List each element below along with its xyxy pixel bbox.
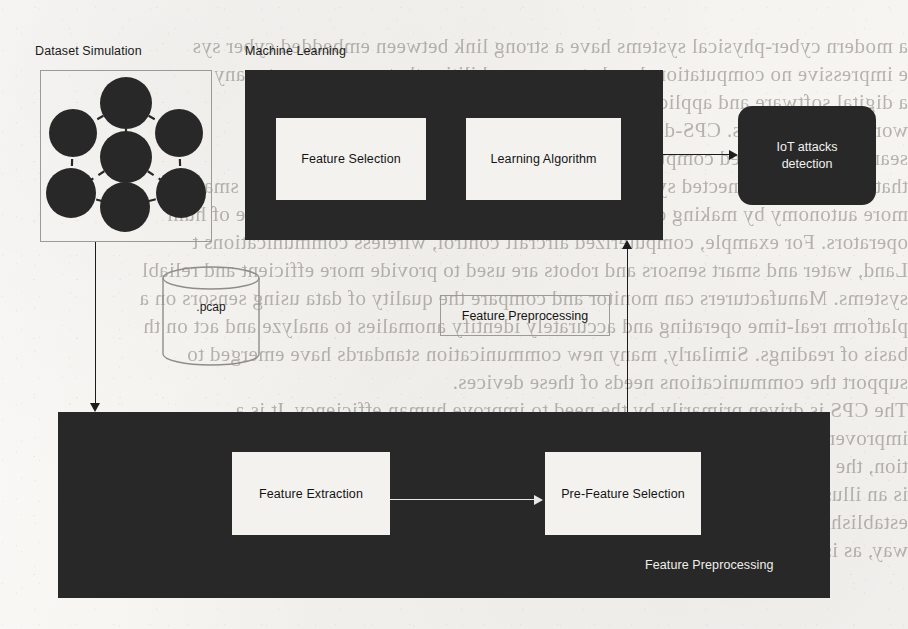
pcap-label: .pcap [160, 300, 262, 314]
iot-attacks-detection-node[interactable]: IoT attacks detection [738, 106, 876, 205]
feature-preprocessing-inner-label: Feature Preprocessing [645, 558, 774, 572]
diagram-canvas: a modern cyber-physical systems have a s… [0, 0, 908, 629]
arrowhead-dataset-to-preprocessing [90, 403, 100, 412]
bleed-line: support the communications needs of thes… [452, 370, 908, 395]
feature-preprocessing-outline-label: Feature Preprocessing [462, 309, 588, 323]
connector-ml-to-iot-detection [663, 154, 733, 155]
feature-selection-box[interactable]: Feature Selection [276, 118, 426, 200]
database-cylinder-icon [160, 266, 262, 366]
connector-extraction-to-preselection [390, 499, 538, 500]
bleed-line: basis of readings. Similarly, many new c… [187, 342, 908, 367]
pcap-datastore[interactable]: .pcap [160, 266, 262, 366]
dataset-simulation-label: Dataset Simulation [35, 44, 142, 58]
feature-extraction-box[interactable]: Feature Extraction [232, 452, 390, 535]
arrowhead-extraction-to-preselection [534, 495, 543, 505]
learning-algorithm-box[interactable]: Learning Algorithm [466, 118, 621, 200]
feature-preprocessing-outline-box[interactable]: Feature Preprocessing [440, 295, 610, 336]
connector-dataset-to-preprocessing [95, 242, 96, 404]
dataset-simulation-box[interactable] [40, 70, 212, 242]
arrowhead-preprocessing-to-ml [622, 240, 632, 249]
iot-attacks-detection-line2: detection [782, 156, 833, 173]
pre-feature-selection-box[interactable]: Pre-Feature Selection [545, 452, 701, 535]
arrowhead-ml-to-iot-detection [729, 150, 738, 160]
machine-learning-label: Machine Learning [245, 44, 346, 58]
iot-attacks-detection-line1: IoT attacks [777, 139, 838, 156]
network-graph-icon [41, 71, 211, 241]
connector-preprocessing-to-ml [627, 248, 628, 412]
